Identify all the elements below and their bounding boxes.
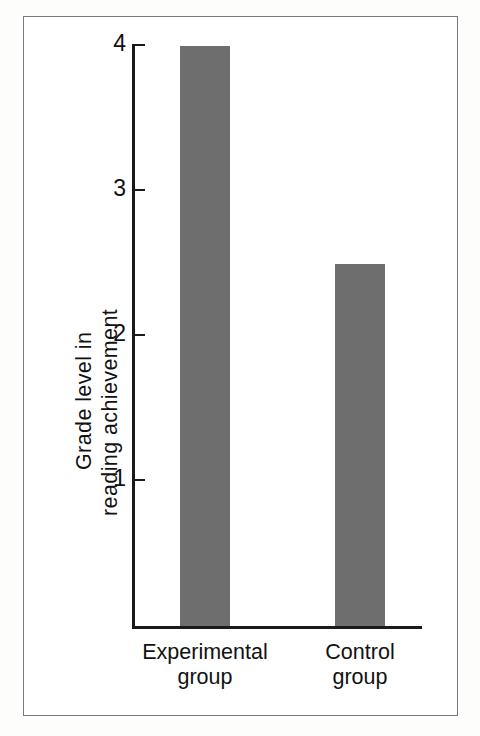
y-tick-1 bbox=[134, 479, 145, 481]
x-category-label-experimental-line2: group bbox=[130, 665, 280, 690]
x-axis-line bbox=[132, 626, 422, 629]
y-tick-2 bbox=[134, 334, 145, 336]
y-axis-line bbox=[132, 44, 135, 629]
y-tick-label-4-wrap: 4 bbox=[98, 32, 126, 56]
x-category-label-control: Control group bbox=[300, 640, 420, 691]
y-tick-label-4: 4 bbox=[100, 32, 126, 55]
bar-experimental-group bbox=[180, 46, 230, 626]
x-category-label-experimental-line1: Experimental bbox=[142, 640, 267, 664]
x-category-label-control-line1: Control bbox=[325, 640, 394, 664]
y-tick-3 bbox=[134, 189, 145, 191]
bar-chart-plot: 4 3 2 1 Experimental group Control group… bbox=[0, 0, 480, 736]
y-axis-title-line1: Grade level in bbox=[72, 332, 97, 470]
y-tick-label-3-wrap: 3 bbox=[98, 177, 126, 201]
figure-container: 4 3 2 1 Experimental group Control group… bbox=[0, 0, 480, 736]
y-tick-label-3: 3 bbox=[100, 177, 126, 200]
x-category-label-control-line2: group bbox=[300, 665, 420, 690]
y-axis-title-line2: reading achievement bbox=[98, 309, 123, 516]
y-tick-4 bbox=[134, 44, 145, 46]
x-category-label-experimental: Experimental group bbox=[130, 640, 280, 691]
bar-control-group bbox=[335, 264, 385, 627]
